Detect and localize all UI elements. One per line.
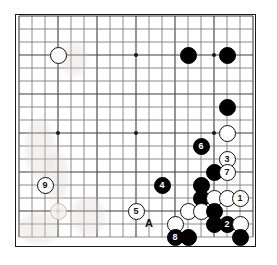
stone-move-4[interactable]: 4 (154, 177, 171, 194)
stone-move-9[interactable]: 9 (37, 177, 54, 194)
move-number: 6 (198, 142, 203, 151)
stone-move-1[interactable]: 1 (232, 190, 249, 207)
point-label-a: A (145, 218, 153, 229)
move-number: 9 (42, 181, 47, 190)
stone-move-5[interactable]: 5 (128, 203, 145, 220)
stone-white-0[interactable] (50, 47, 67, 64)
stone-black-26[interactable] (180, 229, 197, 246)
move-number: 7 (224, 168, 229, 177)
move-number: 3 (224, 155, 229, 164)
go-diagram-root: 637491528 A (0, 0, 277, 265)
stone-black-3[interactable] (219, 99, 236, 116)
stone-black-1[interactable] (180, 47, 197, 64)
stone-ghost-16[interactable] (50, 203, 67, 220)
move-number: 4 (159, 181, 164, 190)
stone-black-2[interactable] (219, 47, 236, 64)
stone-move-6[interactable]: 6 (193, 138, 210, 155)
stone-black-27[interactable] (232, 229, 249, 246)
move-number: 1 (237, 194, 242, 203)
move-number: 5 (133, 207, 138, 216)
stone-move-7[interactable]: 7 (219, 164, 236, 181)
move-number: 8 (172, 233, 177, 242)
go-board[interactable]: 637491528 A (15, 14, 256, 247)
move-number: 2 (224, 220, 229, 229)
stone-white-4[interactable] (219, 125, 236, 142)
